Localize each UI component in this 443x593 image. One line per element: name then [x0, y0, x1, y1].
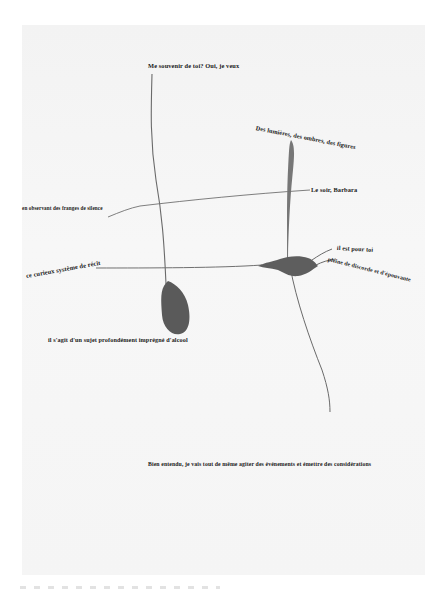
bottom-margin-text-remnant [20, 586, 220, 589]
label-entendu: Bien entendu, je vais tout de même agite… [148, 461, 371, 467]
vertical-line-left [151, 74, 166, 284]
label-soir: Le soir, Barbara [311, 186, 357, 193]
label-souvenir: Me souvenir de toi? Oui, je veux [148, 62, 239, 69]
spread-blob [258, 256, 318, 276]
vertical-line-right-top [287, 140, 294, 258]
horizontal-line-top [108, 190, 310, 217]
vertical-line-right-bottom [290, 266, 330, 412]
drop-blob [161, 281, 189, 334]
line-drawing [0, 0, 443, 593]
horizontal-line-bottom [96, 265, 262, 268]
label-franges: en observant des franges de silence [22, 205, 103, 211]
label-alcool: il s'agit d'un sujet profondément imprég… [48, 336, 188, 343]
